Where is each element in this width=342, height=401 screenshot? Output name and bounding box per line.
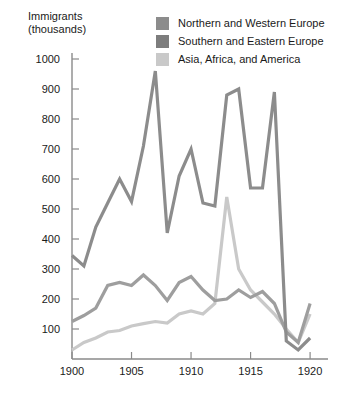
series-line-southern-and-eastern-europe xyxy=(72,71,310,350)
data-series xyxy=(72,71,310,350)
immigration-line-chart: Immigrants(thousands) Northern and Weste… xyxy=(0,0,342,401)
series-line-asia-africa-and-america xyxy=(72,197,310,350)
plot-area xyxy=(0,0,342,401)
